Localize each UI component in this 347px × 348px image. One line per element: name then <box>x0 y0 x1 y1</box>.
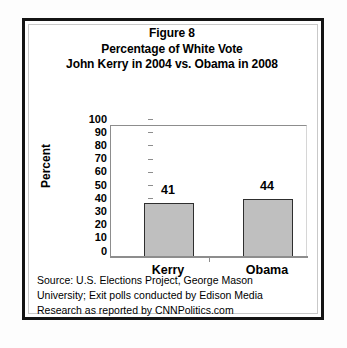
chart-title-line-1: Figure 8 <box>33 26 311 42</box>
figure-border: Figure 8 Percentage of White Vote John K… <box>22 18 324 320</box>
bar-obama <box>243 199 293 257</box>
source-note-line-1: Source: U.S. Elections Project, George M… <box>37 273 309 288</box>
bar-value-kerry: 41 <box>143 183 193 197</box>
source-note-line-2: University; Exit polls conducted by Edis… <box>37 288 309 303</box>
chart-title-line-2: Percentage of White Vote <box>33 42 311 58</box>
y-axis-tick-label: 70 <box>65 153 107 164</box>
y-axis-tick-label: 80 <box>65 140 107 151</box>
source-note: Source: U.S. Elections Project, George M… <box>37 273 309 318</box>
y-axis-tick-label: 30 <box>65 206 107 217</box>
y-axis-title: Percent <box>39 126 53 206</box>
y-axis-tick-label: 50 <box>65 180 107 191</box>
chart-title-block: Figure 8 Percentage of White Vote John K… <box>33 26 311 73</box>
bar-value-obama: 44 <box>242 179 292 193</box>
y-axis-tick-labels: 1009080706050403020100 <box>65 119 107 251</box>
y-axis-tick-label: 60 <box>65 166 107 177</box>
source-note-line-3: Research as reported by CNNPolitics.com <box>37 303 309 318</box>
chart-plot-region: Percent 1009080706050403020100 41 44 Ker… <box>25 103 321 253</box>
x-axis-mid-tick <box>209 257 210 262</box>
y-axis-tick-label: 10 <box>65 232 107 243</box>
y-axis-tick-mark <box>148 119 153 120</box>
chart-title-line-3: John Kerry in 2004 vs. Obama in 2008 <box>33 57 311 73</box>
y-axis-tick-label: 20 <box>65 219 107 230</box>
y-axis-tick-label: 0 <box>65 246 107 257</box>
bar-kerry <box>144 203 194 257</box>
y-axis-tick-label: 100 <box>65 114 107 125</box>
y-axis-tick-label: 90 <box>65 127 107 138</box>
y-axis-tick-label: 40 <box>65 193 107 204</box>
